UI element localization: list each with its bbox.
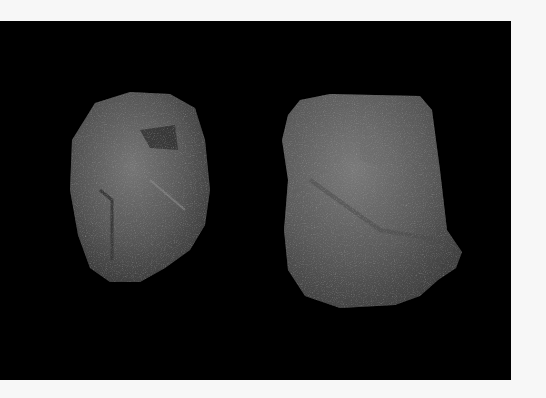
right-stone — [282, 94, 462, 308]
photo-background — [0, 21, 511, 380]
stones-illustration — [0, 21, 511, 380]
left-stone — [70, 92, 210, 282]
